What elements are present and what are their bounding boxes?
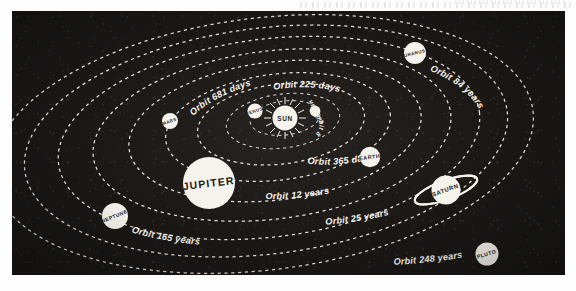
solar-system-plate: Orbit 88 days Orbit 225 days Orbit 365 d…	[12, 11, 565, 275]
screenshot-root: Orbit 88 days Orbit 225 days Orbit 365 d…	[0, 0, 576, 291]
plate-vignette	[12, 11, 565, 275]
scan-bleed-artifact-2	[455, 0, 565, 4]
